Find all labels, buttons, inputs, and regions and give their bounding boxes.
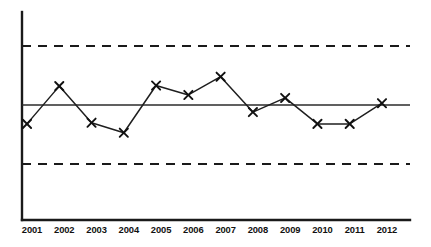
data-point-marker xyxy=(249,108,257,116)
data-point-marker xyxy=(55,82,63,90)
x-tick-label: 2004 xyxy=(119,224,140,235)
x-tick-label: 2005 xyxy=(151,224,171,235)
data-point-marker xyxy=(217,73,225,81)
x-tick-label: 2007 xyxy=(215,224,235,235)
x-tick-label: 2002 xyxy=(54,224,74,235)
data-point-marker xyxy=(23,120,31,128)
x-tick-label: 2008 xyxy=(248,224,268,235)
chart-canvas: 2001200220032004200520062007200820092010… xyxy=(0,0,431,247)
data-point-marker xyxy=(152,81,160,89)
data-point-marker xyxy=(120,129,128,137)
reference-lines-group xyxy=(22,46,410,164)
data-point-marker xyxy=(281,94,289,102)
x-tick-labels-group: 2001200220032004200520062007200820092010… xyxy=(22,224,397,235)
data-point-marker xyxy=(378,99,386,107)
x-tick-label: 2011 xyxy=(345,224,365,235)
x-tick-label: 2010 xyxy=(312,224,332,235)
plot-axes xyxy=(22,12,410,220)
data-point-marker xyxy=(184,91,192,99)
x-tick-label: 2003 xyxy=(86,224,106,235)
x-tick-label: 2012 xyxy=(377,224,397,235)
x-tick-label: 2006 xyxy=(183,224,203,235)
data-point-marker xyxy=(87,119,95,127)
control-chart: 2001200220032004200520062007200820092010… xyxy=(0,0,431,247)
x-tick-label: 2009 xyxy=(280,224,300,235)
x-tick-label: 2001 xyxy=(22,224,42,235)
